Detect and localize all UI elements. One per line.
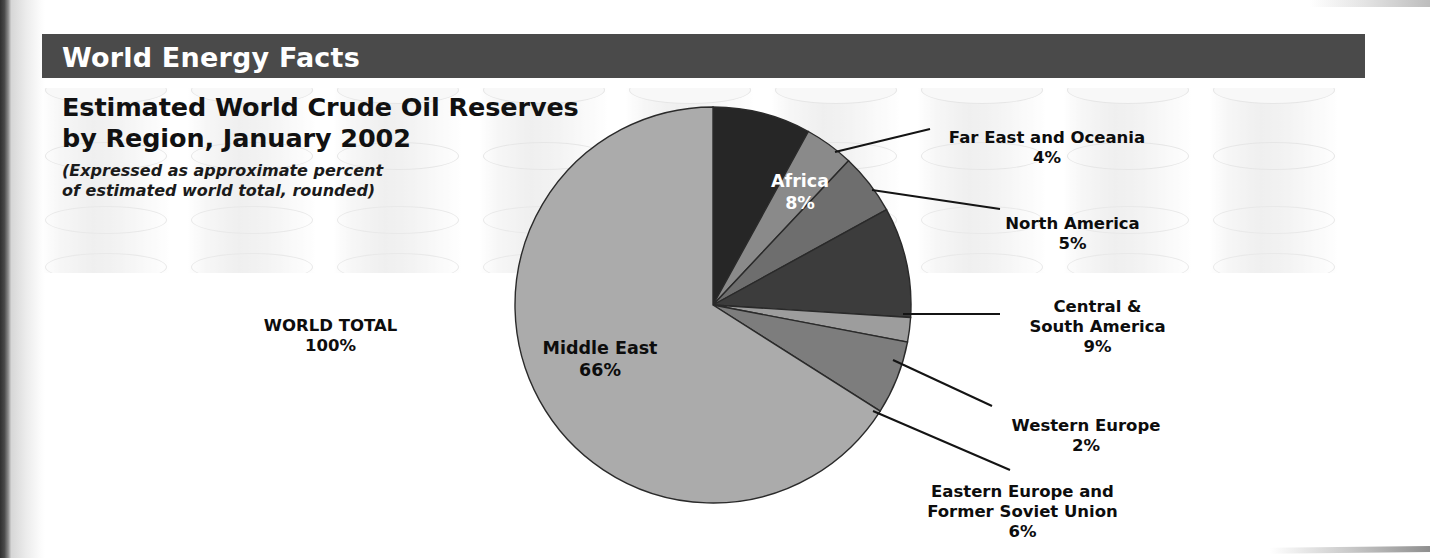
- label-world-total: WORLD TOTAL 100%: [228, 296, 433, 377]
- label-eastern-europe-and-former-soviet-union-value: 6%: [880, 522, 1165, 542]
- label-eastern-europe-and-former-soviet-union-name: Eastern Europe and Former Soviet Union: [927, 482, 1118, 521]
- label-eastern-europe-and-former-soviet-union: Eastern Europe and Former Soviet Union 6…: [880, 462, 1165, 558]
- leader-line-western-europe: [893, 360, 992, 406]
- label-africa-value: 8%: [752, 193, 848, 214]
- label-far-east-and-oceania-name: Far East and Oceania: [949, 128, 1145, 147]
- label-world-total-name: WORLD TOTAL: [264, 316, 397, 335]
- pie-slices: [515, 107, 911, 503]
- label-western-europe-value: 2%: [980, 436, 1192, 456]
- label-middle-east-name: Middle East: [543, 338, 658, 358]
- label-world-total-value: 100%: [228, 336, 433, 356]
- label-central-and-south-america: Central & South America 9%: [1000, 277, 1195, 378]
- label-middle-east-value: 66%: [500, 360, 700, 381]
- label-north-america-value: 5%: [960, 234, 1185, 254]
- label-middle-east: Middle East 66%: [500, 317, 700, 402]
- label-far-east-and-oceania-value: 4%: [912, 148, 1182, 168]
- label-north-america-name: North America: [1005, 214, 1140, 233]
- label-africa: Africa 8%: [752, 150, 848, 235]
- label-central-and-south-america-name: Central & South America: [1029, 297, 1165, 336]
- label-western-europe-name: Western Europe: [1012, 416, 1161, 435]
- pie-chart: [0, 0, 1430, 558]
- label-central-and-south-america-value: 9%: [1000, 337, 1195, 357]
- label-africa-name: Africa: [771, 171, 829, 191]
- label-far-east-and-oceania: Far East and Oceania 4%: [912, 108, 1182, 189]
- label-north-america: North America 5%: [960, 194, 1185, 275]
